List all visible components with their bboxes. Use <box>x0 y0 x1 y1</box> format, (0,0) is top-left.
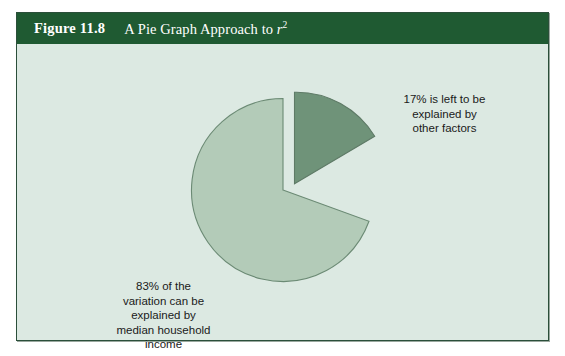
callout-explained: 83% of the variation can be explained by… <box>61 279 266 352</box>
figure-header-bar: Figure 11.8 A Pie Graph Approach to r2 <box>17 13 548 44</box>
figure-screenshot: Figure 11.8 A Pie Graph Approach to r2 1… <box>0 0 565 356</box>
figure-number-label: Figure 11.8 <box>34 20 105 37</box>
figure-title-text: A Pie Graph Approach to <box>124 20 277 36</box>
callout-unexplained: 17% is left to be explained by other fac… <box>357 92 532 136</box>
r-superscript: 2 <box>283 20 288 30</box>
figure-title: A Pie Graph Approach to r2 <box>124 20 287 38</box>
chart-plot-area: 17% is left to be explained by other fac… <box>17 44 548 340</box>
figure-box: Figure 11.8 A Pie Graph Approach to r2 1… <box>16 12 549 341</box>
